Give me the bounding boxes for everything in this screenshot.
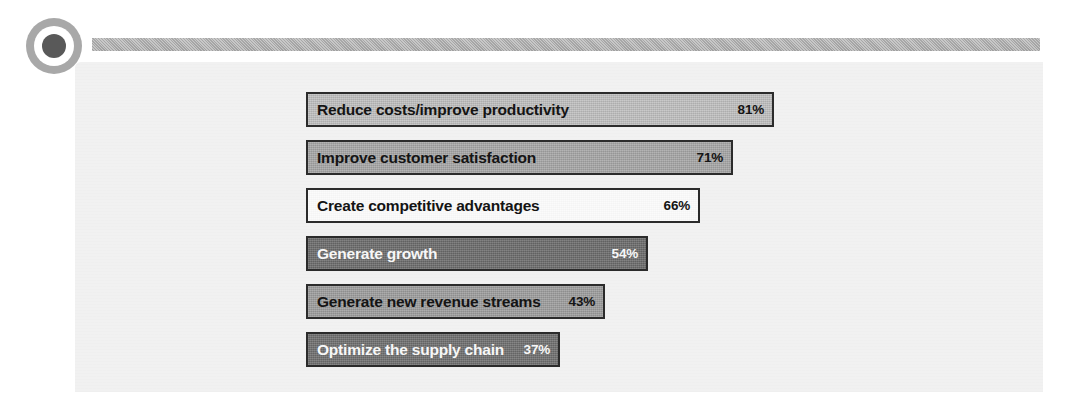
header-rule: [92, 38, 1040, 51]
bar-row: Improve customer satisfaction71%: [306, 140, 1006, 175]
bar-value: 43%: [555, 295, 595, 309]
bar: Reduce costs/improve productivity81%: [306, 92, 774, 127]
bar-value: 66%: [650, 199, 690, 213]
bar: Create competitive advantages66%: [306, 188, 700, 223]
bar-row: Generate new revenue streams43%: [306, 284, 1006, 319]
bar-value: 54%: [598, 247, 638, 261]
bar-label: Generate growth: [317, 246, 437, 262]
bar-value: 81%: [724, 103, 764, 117]
bar: Generate growth54%: [306, 236, 648, 271]
bar-value: 71%: [683, 151, 723, 165]
bar-label: Generate new revenue streams: [317, 294, 541, 310]
circle-bullet-icon: [26, 18, 82, 74]
bar: Generate new revenue streams43%: [306, 284, 605, 319]
chart-panel: Reduce costs/improve productivity81%Impr…: [75, 62, 1043, 392]
bar-row: Reduce costs/improve productivity81%: [306, 92, 1006, 127]
bar-label: Improve customer satisfaction: [317, 150, 536, 166]
bar: Optimize the supply chain37%: [306, 332, 560, 367]
bar-value: 37%: [510, 343, 550, 357]
page-canvas: Reduce costs/improve productivity81%Impr…: [0, 0, 1071, 417]
bar: Improve customer satisfaction71%: [306, 140, 733, 175]
bar-row: Optimize the supply chain37%: [306, 332, 1006, 367]
bar-row: Generate growth54%: [306, 236, 1006, 271]
bar-label: Create competitive advantages: [317, 198, 540, 214]
bar-label: Reduce costs/improve productivity: [317, 102, 569, 118]
bar-row: Create competitive advantages66%: [306, 188, 1006, 223]
bar-chart: Reduce costs/improve productivity81%Impr…: [306, 92, 1006, 380]
bar-label: Optimize the supply chain: [317, 342, 504, 358]
